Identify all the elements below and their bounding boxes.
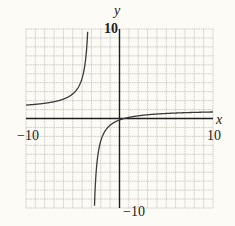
curve-right-branch xyxy=(94,112,213,206)
x-axis-label: x xyxy=(216,113,222,127)
y-axis-label: y xyxy=(114,4,120,18)
y-min-tick-label: −10 xyxy=(123,205,145,219)
y-max-tick-label: 10 xyxy=(104,22,118,36)
x-min-tick-label: −10 xyxy=(17,129,39,143)
x-max-tick-label: 10 xyxy=(207,129,221,143)
